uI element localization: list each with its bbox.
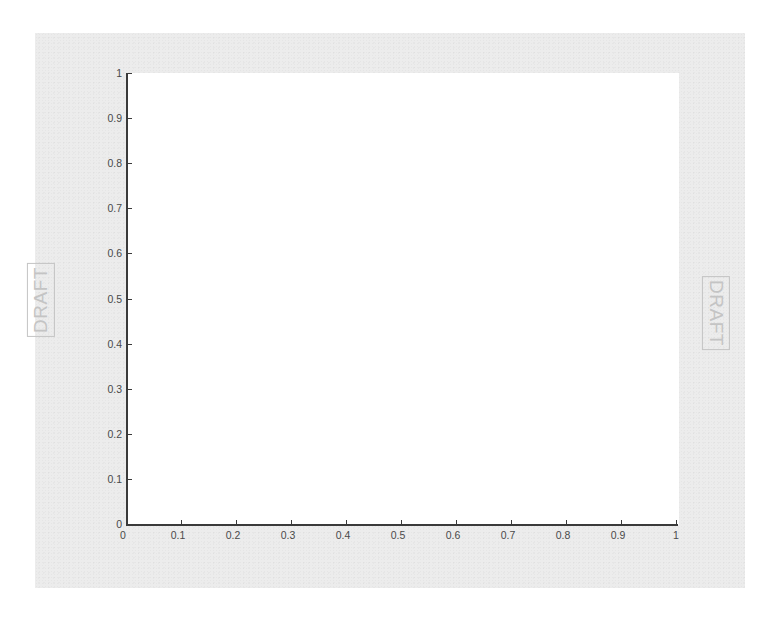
x-tick-label: 0.5 [383,529,413,541]
y-tick [127,299,132,300]
y-tick [127,208,132,209]
x-tick [566,520,567,525]
x-tick-label: 0 [108,529,138,541]
y-tick-label: 1 [92,67,122,79]
draft-watermark-right: DRAFT [702,276,730,350]
x-tick [456,520,457,525]
x-tick [621,520,622,525]
x-tick-label: 0.8 [548,529,578,541]
plot-area [127,73,679,525]
y-tick-label: 0.2 [92,428,122,440]
x-tick-label: 0.3 [273,529,303,541]
x-tick [346,520,347,525]
y-tick [127,479,132,480]
y-tick [127,118,132,119]
x-tick [291,520,292,525]
x-tick-label: 0.2 [218,529,248,541]
x-tick [401,520,402,525]
x-tick-label: 0.4 [328,529,358,541]
x-tick [511,520,512,525]
y-tick-label: 0.6 [92,247,122,259]
y-tick [127,253,132,254]
y-tick-label: 0.3 [92,383,122,395]
y-tick-label: 0.1 [92,473,122,485]
y-tick [127,163,132,164]
y-tick-label: 0.8 [92,157,122,169]
y-tick [127,524,132,525]
x-tick-label: 1 [661,529,691,541]
y-tick [127,344,132,345]
x-tick [181,520,182,525]
y-tick-label: 0.5 [92,293,122,305]
x-tick [676,520,677,525]
draft-watermark-left: DRAFT [27,263,55,337]
y-tick [127,434,132,435]
y-tick-label: 0.4 [92,338,122,350]
y-tick-label: 0.7 [92,202,122,214]
x-tick-label: 0.1 [163,529,193,541]
y-tick [127,73,132,74]
x-tick [236,520,237,525]
y-tick-label: 0.9 [92,112,122,124]
x-tick-label: 0.9 [603,529,633,541]
x-tick-label: 0.6 [438,529,468,541]
y-tick [127,389,132,390]
x-tick [126,520,127,525]
x-tick-label: 0.7 [493,529,523,541]
